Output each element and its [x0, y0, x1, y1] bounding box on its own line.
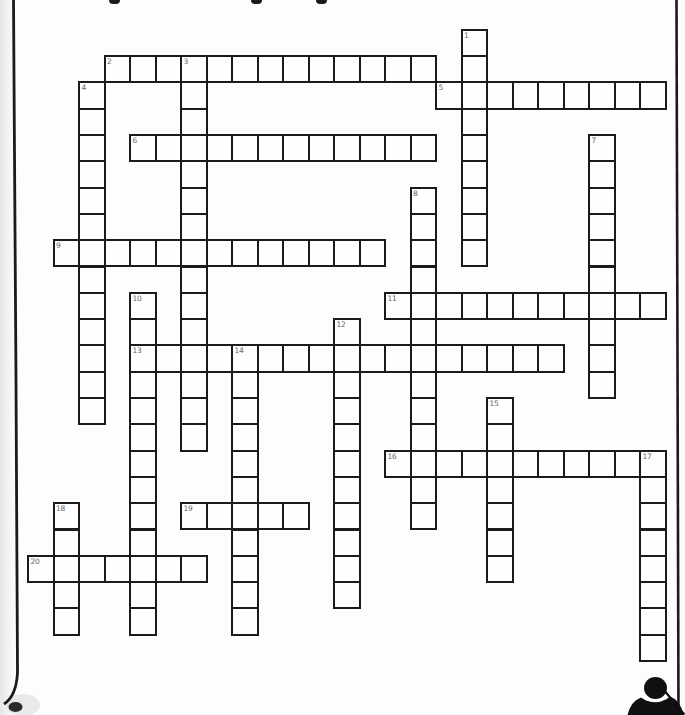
crossword-cell — [282, 134, 310, 162]
crossword-cell — [384, 344, 412, 372]
clue-number: 13 — [133, 347, 142, 355]
crossword-cell — [78, 555, 106, 583]
crossword-cell — [333, 555, 361, 583]
crossword-grid: 1234567891011121314151617181920 — [0, 0, 685, 715]
crossword-cell — [231, 134, 259, 162]
crossword-cell — [129, 607, 157, 635]
crossword-cell — [180, 81, 208, 109]
crossword-cell — [486, 292, 514, 320]
crossword-cell — [78, 266, 106, 294]
crossword-cell — [180, 318, 208, 346]
crossword-cell — [308, 134, 336, 162]
crossword-cell — [206, 134, 234, 162]
crossword-cell — [486, 476, 514, 504]
crossword-cell — [333, 239, 361, 267]
crossword-cell — [563, 450, 591, 478]
crossword-cell — [129, 371, 157, 399]
crossword-cell — [639, 476, 667, 504]
crossword-cell — [461, 239, 489, 267]
crossword-cell — [180, 397, 208, 425]
crossword-cell — [410, 55, 438, 83]
crossword-cell — [155, 344, 183, 372]
crossword-cell — [333, 502, 361, 530]
crossword-cell — [257, 134, 285, 162]
crossword-cell — [588, 318, 616, 346]
crossword-cell — [410, 213, 438, 241]
crossword-cell — [410, 397, 438, 425]
crossword-cell — [588, 160, 616, 188]
crossword-cell — [206, 344, 234, 372]
crossword-cell — [588, 187, 616, 215]
clue-number: 9 — [56, 242, 60, 250]
crossword-cell — [588, 344, 616, 372]
crossword-cell — [461, 450, 489, 478]
crossword-cell — [129, 397, 157, 425]
crossword-cell — [588, 239, 616, 267]
crossword-cell — [639, 81, 667, 109]
crossword-cell — [384, 134, 412, 162]
scanned-crossword-page: 1234567891011121314151617181920 — [0, 0, 685, 715]
crossword-cell — [180, 423, 208, 451]
crossword-cell — [206, 502, 234, 530]
crossword-cell — [231, 397, 259, 425]
crossword-cell — [486, 502, 514, 530]
crossword-cell — [231, 450, 259, 478]
crossword-cell — [129, 502, 157, 530]
crossword-cell — [333, 371, 361, 399]
crossword-cell — [486, 555, 514, 583]
crossword-cell — [78, 239, 106, 267]
crossword-cell — [639, 292, 667, 320]
crossword-cell — [410, 502, 438, 530]
crossword-cell — [333, 344, 361, 372]
crossword-cell — [257, 344, 285, 372]
crossword-cell — [588, 81, 616, 109]
crossword-cell — [206, 239, 234, 267]
crossword-cell — [231, 371, 259, 399]
crossword-cell — [639, 529, 667, 557]
crossword-cell — [206, 55, 234, 83]
crossword-cell — [512, 292, 540, 320]
crossword-cell — [537, 292, 565, 320]
crossword-cell — [78, 318, 106, 346]
crossword-cell — [333, 397, 361, 425]
crossword-cell — [614, 292, 642, 320]
crossword-cell — [308, 239, 336, 267]
crossword-cell — [537, 344, 565, 372]
clue-number: 14 — [235, 347, 244, 355]
crossword-cell — [410, 450, 438, 478]
crossword-cell — [180, 239, 208, 267]
crossword-cell — [180, 344, 208, 372]
crossword-cell — [180, 134, 208, 162]
crossword-cell — [282, 502, 310, 530]
crossword-cell — [231, 476, 259, 504]
crossword-cell — [410, 318, 438, 346]
crossword-cell — [180, 213, 208, 241]
crossword-cell — [180, 108, 208, 136]
cropped-text-fragment — [109, 0, 120, 4]
crossword-cell — [512, 450, 540, 478]
crossword-cell — [359, 344, 387, 372]
crossword-cell — [486, 529, 514, 557]
crossword-cell — [639, 555, 667, 583]
clue-number: 10 — [133, 295, 142, 303]
clue-number: 17 — [643, 453, 652, 461]
crossword-cell — [129, 476, 157, 504]
clue-number: 6 — [133, 137, 137, 145]
clue-number: 3 — [184, 58, 188, 66]
crossword-cell — [333, 134, 361, 162]
clue-number: 2 — [107, 58, 111, 66]
crossword-cell — [359, 239, 387, 267]
crossword-cell — [435, 292, 463, 320]
crossword-cell — [155, 555, 183, 583]
crossword-cell — [129, 450, 157, 478]
crossword-cell — [461, 344, 489, 372]
crossword-cell — [461, 292, 489, 320]
crossword-cell — [53, 581, 81, 609]
crossword-cell — [231, 55, 259, 83]
clue-number: 7 — [592, 137, 596, 145]
crossword-cell — [129, 423, 157, 451]
crossword-cell — [78, 160, 106, 188]
crossword-cell — [231, 529, 259, 557]
crossword-cell — [333, 55, 361, 83]
crossword-cell — [410, 423, 438, 451]
